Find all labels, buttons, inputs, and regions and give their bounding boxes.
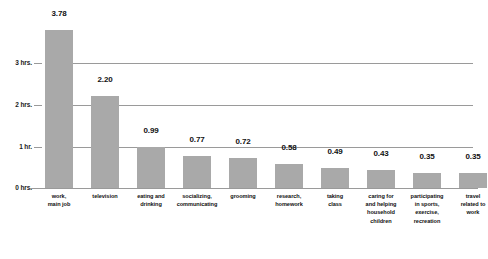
bar-category-line: eating and	[127, 192, 175, 200]
bar-value-label: 3.78	[38, 9, 80, 18]
bar-category-label: grooming	[219, 192, 267, 200]
bar-rect[interactable]	[45, 30, 73, 188]
bar-category-line: household	[357, 208, 405, 216]
bar-group-socializing-communicating: 0.77 socializing, communicating	[176, 0, 218, 259]
bar-group-grooming: 0.72 grooming	[222, 0, 264, 259]
bar-category-label: television	[81, 192, 129, 200]
bar-category-line: exercise,	[403, 208, 451, 216]
bar-category-label: work, main job	[35, 192, 83, 208]
bar-category-line: drinking	[127, 200, 175, 208]
bar-rect[interactable]	[91, 96, 119, 188]
bar-rect[interactable]	[183, 156, 211, 188]
bar-category-label: travel related to work	[449, 192, 488, 217]
bar-category-line: homework	[265, 200, 313, 208]
bar-value-label: 0.35	[406, 152, 448, 161]
bar-category-label: eating and drinking	[127, 192, 175, 208]
bar-category-line: television	[81, 192, 129, 200]
bar-value-label: 0.58	[268, 143, 310, 152]
bar-value-label: 2.20	[84, 75, 126, 84]
bar-group-caring-for-household-children: 0.43 caring for and helping household ch…	[360, 0, 402, 259]
bar-category-line: socializing,	[173, 192, 221, 200]
bar-value-label: 0.43	[360, 149, 402, 158]
bar-category-line: class	[311, 200, 359, 208]
bar-category-line: work,	[35, 192, 83, 200]
bar-value-label: 0.99	[130, 126, 172, 135]
bar-category-line: communicating	[173, 200, 221, 208]
bar-group-eating-and-drinking: 0.99 eating and drinking	[130, 0, 172, 259]
bar-value-label: 0.72	[222, 137, 264, 146]
bar-value-label: 0.77	[176, 135, 218, 144]
bar-category-label: research, homework	[265, 192, 313, 208]
bar-rect[interactable]	[459, 173, 487, 188]
bar-group-taking-class: 0.49 taking class	[314, 0, 356, 259]
bar-category-line: travel	[449, 192, 488, 200]
bar-rect[interactable]	[137, 147, 165, 188]
bar-category-label: taking class	[311, 192, 359, 208]
bar-rect[interactable]	[229, 158, 257, 188]
bar-category-line: recreation	[403, 217, 451, 225]
bar-category-line: caring for	[357, 192, 405, 200]
bar-category-line: related to	[449, 200, 488, 208]
bar-category-line: main job	[35, 200, 83, 208]
bar-value-label: 0.35	[452, 152, 488, 161]
bar-group-television: 2.20 television	[84, 0, 126, 259]
bar-group-participating-in-sports: 0.35 participating in sports, exercise, …	[406, 0, 448, 259]
bar-chart: 3 hrs. 2 hrs. 1 hr. 0 hrs. 3.78 work, ma…	[0, 0, 488, 259]
bar-group-travel-related-to-work: 0.35 travel related to work	[452, 0, 488, 259]
bar-group-work-main-job: 3.78 work, main job	[38, 0, 80, 259]
bar-category-label: participating in sports, exercise, recre…	[403, 192, 451, 225]
bar-category-line: and helping	[357, 200, 405, 208]
bar-rect[interactable]	[367, 170, 395, 188]
bar-group-research-homework: 0.58 research, homework	[268, 0, 310, 259]
bar-rect[interactable]	[413, 173, 441, 188]
bar-category-line: children	[357, 217, 405, 225]
bar-category-line: research,	[265, 192, 313, 200]
bar-value-label: 0.49	[314, 147, 356, 156]
bars-layer: 3.78 work, main job 2.20 television 0.99…	[0, 0, 488, 259]
bar-rect[interactable]	[321, 168, 349, 188]
bar-category-line: in sports,	[403, 200, 451, 208]
bar-rect[interactable]	[275, 164, 303, 188]
bar-category-line: participating	[403, 192, 451, 200]
bar-category-label: caring for and helping household childre…	[357, 192, 405, 225]
bar-category-label: socializing, communicating	[173, 192, 221, 208]
bar-category-line: taking	[311, 192, 359, 200]
bar-category-line: grooming	[219, 192, 267, 200]
bar-category-line: work	[449, 208, 488, 216]
